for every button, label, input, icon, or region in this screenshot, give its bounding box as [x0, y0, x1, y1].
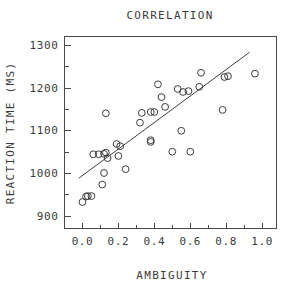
y-tick-label: 1300 [30, 39, 59, 52]
y-tick-label: 1000 [30, 167, 59, 180]
scatter-point [198, 69, 205, 76]
x-tick-label: 0.0 [72, 235, 94, 248]
x-tick-label: 0.2 [108, 235, 130, 248]
scatter-point [115, 153, 122, 160]
scatter-point [102, 110, 109, 117]
x-tick-label: 0.8 [215, 235, 237, 248]
scatter-point [122, 166, 129, 173]
x-tick-label: 0.4 [143, 235, 165, 248]
scatter-point [162, 104, 169, 111]
chart-title: CORRELATION [126, 9, 213, 22]
x-axis-label: AMBIGUITY [136, 269, 207, 282]
scatter-point [219, 106, 226, 113]
x-tick-label: 0.6 [179, 235, 201, 248]
y-tick-label: 1100 [30, 124, 59, 137]
chart-canvas: CORRELATION 9001000110012001300 0.00.20.… [0, 0, 299, 289]
y-tick-label: 1200 [30, 82, 59, 95]
scatter-point [158, 94, 165, 101]
scatter-point [138, 109, 145, 116]
scatter-points [79, 69, 258, 205]
scatter-point [101, 170, 108, 177]
y-axis-label: REACTION TIME (MS) [4, 62, 17, 205]
x-tick-label: 1.0 [251, 235, 273, 248]
plot-frame [65, 37, 277, 229]
scatter-point [187, 148, 194, 155]
correlation-scatter-chart: CORRELATION 9001000110012001300 0.00.20.… [0, 0, 299, 289]
scatter-point [178, 127, 185, 134]
scatter-point [155, 81, 162, 88]
y-axis-major-ticks [65, 46, 71, 217]
x-axis-tick-labels: 0.00.20.40.60.81.0 [72, 235, 273, 248]
scatter-point [252, 70, 259, 77]
x-axis-minor-ticks [101, 225, 245, 229]
scatter-point [169, 148, 176, 155]
scatter-point [137, 119, 144, 126]
y-axis-tick-labels: 9001000110012001300 [30, 39, 59, 223]
y-tick-label: 900 [37, 210, 59, 223]
scatter-point [99, 181, 106, 188]
